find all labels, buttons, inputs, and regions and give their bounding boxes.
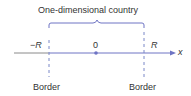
center-mark-label: 0: [93, 40, 98, 50]
diagram-title: One-dimensional country: [38, 5, 138, 15]
right-border-label: Border: [129, 82, 156, 92]
axis-label: x: [178, 47, 183, 57]
axis-arrow-icon: [170, 51, 176, 56]
right-mark-label: R: [151, 40, 158, 50]
brace: [49, 20, 144, 28]
origin-dot: [94, 51, 98, 55]
left-border-label: Border: [33, 82, 60, 92]
left-mark-label: −R: [30, 40, 42, 50]
